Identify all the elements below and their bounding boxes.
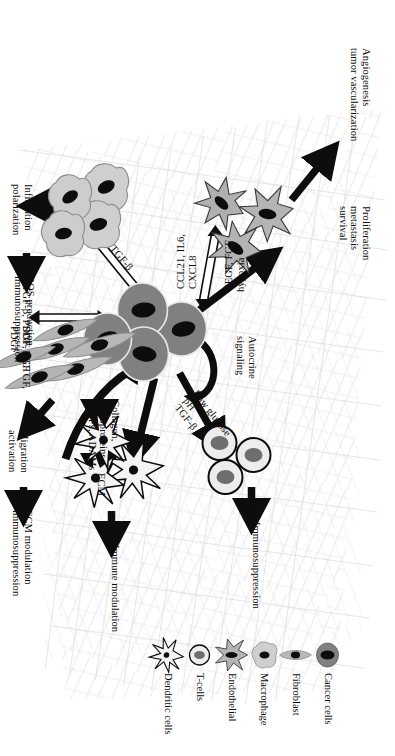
legend-label-tcells: T-cells: [194, 673, 205, 701]
label-ccl21-il6-cxcl8: CCL21, IL6, CXCL8: [174, 234, 197, 289]
label-infiltration-polarization: Infiltration polarization: [10, 184, 33, 235]
label-proliferation: Proliferation metastasis survival: [337, 206, 372, 260]
label-immunosuppression-tcell: Immunosuppression: [250, 522, 262, 609]
label-ecm: ECM: [95, 473, 107, 496]
label-angiogenesis: Angiogenesis tumor vascularization: [348, 48, 371, 141]
label-ecm-modulation: ECM modulation immunosuppression: [10, 510, 33, 596]
legend-label-macrophage: Macrophage: [258, 673, 269, 725]
figure-root: Angiogenesis tumor vascularization Proli…: [0, 0, 395, 756]
legend-label-dendritic-cells: Dendritic cells: [162, 673, 173, 735]
label-autocrine-signaling: Autocrine signaling: [234, 336, 257, 379]
legend-label-fibroblast: Fibroblast: [290, 673, 301, 716]
tcell-icon: [189, 645, 209, 665]
rotated-figure-layer: Angiogenesis tumor vascularization Proli…: [0, 0, 395, 756]
label-ros-production: ROS production immunosuppression: [12, 276, 35, 362]
legend-label-endothelial: Endothelial: [226, 673, 237, 721]
label-immune-modulation: Immune modulation: [109, 545, 121, 632]
label-migration-activation: Migration activation: [6, 430, 29, 473]
label-vegf-fgf-hypoxia: VEGF, FGF hypoxia: [222, 240, 245, 292]
cancer-cell-icon: [316, 643, 338, 667]
label-collagen-glycoproteins: Collagen, glycoproteins, MMPs, ADAMs: [86, 400, 121, 471]
legend-label-cancer-cells: Cancer cells: [322, 673, 333, 725]
diagram-canvas: [0, 0, 395, 756]
